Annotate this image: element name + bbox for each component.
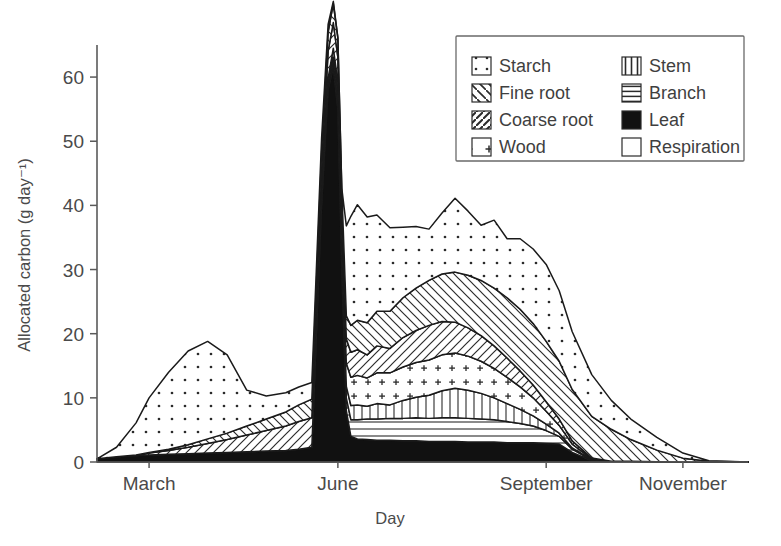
allocated-carbon-stacked-area-chart: 0102030405060 MarchJuneSeptemberNovember…: [0, 0, 781, 546]
legend-label-coarse-root: Coarse root: [499, 110, 593, 130]
legend-swatch-stem: [622, 57, 641, 75]
legend-swatch-branch: [622, 84, 641, 102]
legend-label-fine-root: Fine root: [499, 83, 570, 103]
legend-label-branch: Branch: [649, 83, 706, 103]
legend-label-leaf: Leaf: [649, 110, 685, 130]
legend-swatch-leaf: [622, 111, 641, 129]
legend-swatch-coarse-root: [472, 111, 491, 129]
legend-label-starch: Starch: [499, 56, 551, 76]
legend-swatch-respiration: [622, 138, 641, 156]
y-tick-label: 20: [63, 324, 84, 345]
y-tick-label: 0: [73, 452, 84, 473]
figure-container: 0102030405060 MarchJuneSeptemberNovember…: [0, 0, 781, 546]
legend-swatch-wood: [472, 138, 491, 156]
x-tick-label-june: June: [317, 473, 358, 494]
y-tick-label: 10: [63, 388, 84, 409]
legend-label-respiration: Respiration: [649, 137, 740, 157]
legend-label-stem: Stem: [649, 56, 691, 76]
x-tick-label-november: November: [639, 473, 727, 494]
x-axis-ticks: MarchJuneSeptemberNovember: [123, 462, 728, 494]
y-axis-title: Allocated carbon (g day⁻¹): [15, 158, 33, 351]
x-axis-title: Day: [375, 509, 405, 527]
y-tick-label: 40: [63, 195, 84, 216]
y-tick-label: 60: [63, 67, 84, 88]
legend-swatch-fine-root: [472, 84, 491, 102]
chart-legend: StarchStemFine rootBranchCoarse rootLeaf…: [456, 36, 744, 161]
y-tick-label: 30: [63, 260, 84, 281]
y-tick-label: 50: [63, 131, 84, 152]
x-tick-label-september: September: [500, 473, 594, 494]
legend-label-wood: Wood: [499, 137, 546, 157]
legend-swatch-starch: [472, 57, 491, 75]
x-tick-label-march: March: [123, 473, 176, 494]
y-axis-ticks: 0102030405060: [63, 67, 97, 473]
